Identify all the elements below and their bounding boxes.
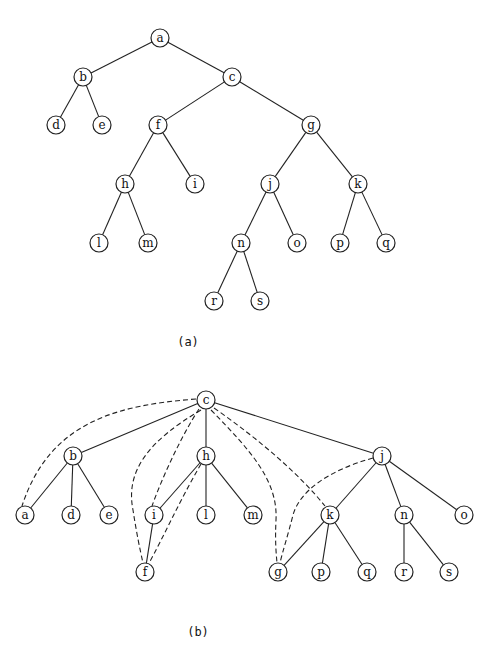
node-h: h	[116, 175, 134, 193]
edge-b-e	[86, 85, 98, 116]
tree-diagram: abcdefghijklmnopqrs(a)cbhjadeilmknofgpqr…	[0, 0, 502, 657]
node-s: s	[251, 292, 269, 310]
node-d: d	[47, 116, 65, 134]
node-label: a	[156, 31, 163, 45]
edge-j-n	[385, 464, 401, 506]
node-q: q	[377, 234, 395, 252]
node-j: j	[261, 175, 279, 193]
node-label: h	[202, 449, 210, 463]
dashed-edge-c-i	[152, 409, 199, 506]
panel-caption: (b)	[187, 625, 209, 639]
node-r: r	[205, 292, 223, 310]
tree-panel-b: cbhjadeilmknofgpqrs(b)	[16, 391, 473, 639]
node-e: e	[100, 506, 118, 524]
node-label: o	[293, 236, 300, 250]
node-label: o	[460, 508, 467, 522]
node-label: r	[401, 565, 407, 579]
node-g: g	[302, 116, 320, 134]
node-a: a	[16, 506, 34, 524]
node-label: e	[105, 508, 112, 522]
node-label: h	[121, 177, 129, 191]
edge-h-l	[103, 192, 122, 235]
node-n: n	[232, 234, 250, 252]
node-o: o	[288, 234, 306, 252]
node-label: k	[354, 177, 362, 191]
edge-k-q	[362, 192, 382, 235]
edge-k-q	[335, 523, 362, 565]
edge-j-o	[274, 192, 294, 235]
node-label: e	[98, 118, 105, 132]
node-label: s	[257, 294, 263, 308]
edge-b-e	[78, 464, 105, 508]
node-label: g	[307, 118, 315, 132]
node-label: b	[79, 70, 87, 84]
node-m: m	[244, 506, 262, 524]
edge-k-p	[343, 193, 356, 235]
tree-panel-a: abcdefghijklmnopqrs(a)	[47, 29, 395, 349]
edge-h-i	[160, 463, 200, 508]
edge-b-a	[31, 463, 68, 508]
node-i: i	[145, 506, 163, 524]
node-k: k	[349, 175, 367, 193]
node-o: o	[455, 506, 473, 524]
node-label: q	[382, 236, 390, 250]
node-label: p	[317, 565, 325, 579]
edge-n-r	[218, 251, 237, 293]
node-b: b	[64, 447, 82, 465]
node-label: b	[69, 449, 77, 463]
edge-b-d	[60, 85, 78, 117]
edge-h-m	[128, 192, 144, 234]
node-label: c	[203, 393, 210, 407]
node-p: p	[331, 234, 349, 252]
node-label: r	[211, 294, 217, 308]
node-i: i	[186, 175, 204, 193]
node-p: p	[312, 563, 330, 581]
edge-j-n	[245, 192, 266, 235]
edge-f-i	[163, 133, 190, 177]
edge-g-j	[275, 132, 306, 176]
node-a: a	[151, 29, 169, 47]
node-l: l	[197, 506, 215, 524]
node-j: j	[373, 447, 391, 465]
edge-c-f	[166, 82, 225, 120]
node-c: c	[223, 68, 241, 86]
dashed-edge-c-f	[132, 410, 201, 563]
edge-n-s	[410, 522, 444, 565]
node-h: h	[197, 447, 215, 465]
node-label: p	[336, 236, 344, 250]
node-label: c	[229, 70, 236, 84]
edge-g-k	[317, 132, 353, 177]
edge-a-c	[168, 42, 224, 72]
node-label: d	[52, 118, 60, 132]
node-label: g	[274, 565, 282, 579]
node-label: s	[446, 565, 452, 579]
node-q: q	[358, 563, 376, 581]
node-label: i	[193, 177, 197, 191]
node-c: c	[197, 391, 215, 409]
node-k: k	[321, 506, 339, 524]
node-e: e	[93, 116, 111, 134]
node-s: s	[440, 563, 458, 581]
edge-n-s	[244, 252, 257, 293]
dashed-edge-c-g	[211, 410, 277, 563]
node-label: k	[326, 508, 334, 522]
node-d: d	[62, 506, 80, 524]
node-label: l	[97, 236, 101, 250]
node-label: n	[400, 508, 408, 522]
node-label: a	[21, 508, 28, 522]
node-label: l	[204, 508, 208, 522]
edge-c-j	[215, 403, 374, 454]
edge-c-g	[240, 82, 304, 121]
node-f: f	[149, 116, 167, 134]
node-f: f	[136, 563, 154, 581]
edge-h-m	[212, 463, 248, 508]
node-n: n	[395, 506, 413, 524]
edge-f-h	[129, 133, 153, 176]
node-l: l	[90, 234, 108, 252]
edge-c-b	[81, 403, 197, 452]
node-r: r	[395, 563, 413, 581]
node-label: m	[142, 236, 154, 250]
node-label: q	[363, 565, 371, 579]
node-b: b	[74, 68, 92, 86]
node-m: m	[139, 234, 157, 252]
